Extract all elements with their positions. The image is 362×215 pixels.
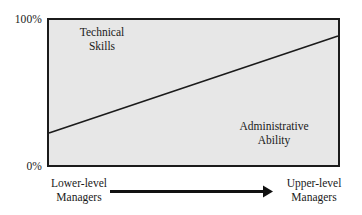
arrow-right-icon	[263, 186, 273, 198]
y-axis-min-label: 0%	[2, 161, 42, 173]
region-label-administrative-ability: Administrative Ability	[219, 119, 329, 147]
region-label-technical-skills: Technical Skills	[59, 25, 145, 53]
region-label-technical-skills-line2: Skills	[59, 39, 145, 53]
managerial-skills-diagram: 100% 0% Technical Skills Administrative …	[0, 0, 362, 215]
x-axis-caption-lower-level-line2: Managers	[42, 190, 116, 204]
x-axis-caption-upper-level-line2: Managers	[277, 190, 351, 204]
region-label-administrative-ability-line2: Ability	[219, 133, 329, 147]
y-axis-max-label: 100%	[2, 14, 42, 26]
x-axis-caption-lower-level-line1: Lower-level	[42, 176, 116, 190]
region-label-technical-skills-line1: Technical	[59, 25, 145, 39]
x-axis-caption-upper-level-line1: Upper-level	[277, 176, 351, 190]
x-axis-caption-upper-level: Upper-level Managers	[277, 176, 351, 204]
x-axis-caption-lower-level: Lower-level Managers	[42, 176, 116, 204]
region-label-administrative-ability-line1: Administrative	[219, 119, 329, 133]
